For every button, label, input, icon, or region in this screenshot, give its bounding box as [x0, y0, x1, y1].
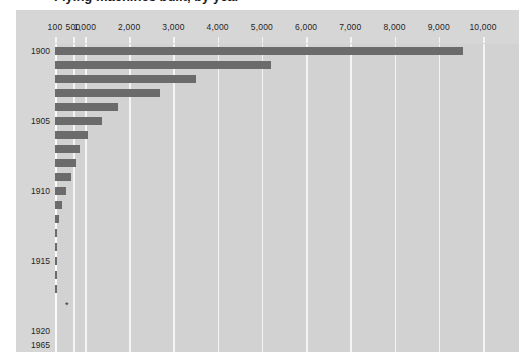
bar-row-1909 [55, 173, 519, 182]
x-tick-label-9000: 9,000 [428, 22, 450, 32]
bar-row-1903 [55, 89, 519, 98]
bar-1915 [55, 257, 57, 266]
bar-row-1915 [55, 257, 519, 266]
chart-screenshot: Flying machines built, by year 1005001,0… [0, 0, 519, 361]
bar-1912 [55, 215, 59, 224]
bar-1907 [55, 145, 80, 154]
bar-1903 [55, 89, 160, 98]
x-tick-mark-1000 [85, 37, 87, 43]
x-tick-label-10000: 10,000 [469, 22, 496, 32]
bar-1908 [55, 159, 76, 168]
y-tick-label-1920: 1920 [16, 326, 50, 336]
bar-row-1920 [55, 327, 519, 336]
bar-1904 [55, 103, 118, 112]
bar-row-1911 [55, 201, 519, 210]
bar-1902 [55, 75, 196, 84]
x-tick-mark-100 [55, 37, 57, 43]
footnote-asterisk-icon: * [65, 302, 69, 308]
bar-1900 [55, 47, 463, 56]
bar-1911 [55, 201, 62, 210]
x-tick-label-8000: 8,000 [383, 22, 405, 32]
bar-row-1901 [55, 61, 519, 70]
bar-row-1917 [55, 285, 519, 294]
bar-row-1918 [55, 299, 519, 308]
x-tick-label-100: 100 [48, 22, 63, 32]
plot-area: * [55, 44, 519, 352]
bar-row-1900 [55, 47, 519, 56]
x-tick-mark-2000 [129, 37, 131, 43]
chart-panel: 1005001,0002,0003,0004,0005,0006,0007,00… [16, 10, 519, 352]
bar-row-1902 [55, 75, 519, 84]
x-tick-mark-6000 [306, 37, 308, 43]
bar-row-1910 [55, 187, 519, 196]
bar-row-1906 [55, 131, 519, 140]
bar-row-1919 [55, 313, 519, 322]
bar-row-1916 [55, 271, 519, 280]
bar-row-1912 [55, 215, 519, 224]
x-tick-label-1000: 1,000 [74, 22, 96, 32]
page-title: Flying machines built, by year [54, 0, 240, 4]
y-tick-label-1915: 1915 [16, 256, 50, 266]
bar-1905 [55, 117, 102, 126]
bar-row-1965 [55, 341, 519, 350]
bar-row-1914 [55, 243, 519, 252]
y-tick-label-1905: 1905 [16, 116, 50, 126]
bar-row-1907 [55, 145, 519, 154]
bar-1910 [55, 187, 66, 196]
bar-1916 [55, 271, 57, 280]
y-tick-label-1910: 1910 [16, 186, 50, 196]
x-tick-label-7000: 7,000 [339, 22, 361, 32]
x-tick-mark-5000 [262, 37, 264, 43]
x-tick-label-2000: 2,000 [118, 22, 140, 32]
bar-1914 [55, 243, 57, 252]
bar-row-1913 [55, 229, 519, 238]
bar-row-1905 [55, 117, 519, 126]
x-tick-mark-10000 [483, 37, 485, 43]
x-tick-label-6000: 6,000 [295, 22, 317, 32]
x-tick-label-3000: 3,000 [162, 22, 184, 32]
bar-1913 [55, 229, 57, 238]
y-tick-label-1900: 1900 [16, 46, 50, 56]
x-tick-mark-7000 [350, 37, 352, 43]
bar-1917 [55, 285, 57, 294]
chart-title-clipped: Flying machines built, by year [0, 0, 519, 9]
bar-row-1904 [55, 103, 519, 112]
bar-1909 [55, 173, 71, 182]
x-tick-mark-8000 [395, 37, 397, 43]
bar-1906 [55, 131, 88, 140]
x-tick-mark-500 [73, 37, 75, 43]
x-tick-mark-3000 [173, 37, 175, 43]
bar-1901 [55, 61, 271, 70]
x-tick-mark-4000 [218, 37, 220, 43]
x-tick-label-4000: 4,000 [207, 22, 229, 32]
x-tick-label-5000: 5,000 [251, 22, 273, 32]
x-tick-mark-9000 [439, 37, 441, 43]
bar-row-1908 [55, 159, 519, 168]
y-tick-label-1965: 1965 [16, 340, 50, 350]
